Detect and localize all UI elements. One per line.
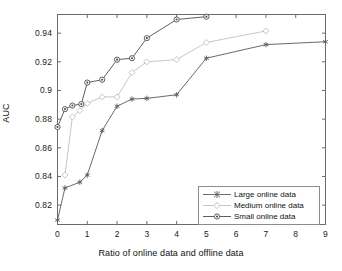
y-tick-label: 0.86 <box>18 143 52 153</box>
y-tick-label: 0.9 <box>18 85 52 95</box>
x-tick-label: 5 <box>204 229 209 239</box>
legend-item-small: Small online data <box>199 211 319 222</box>
auc-vs-ratio-line-chart <box>0 0 342 271</box>
y-tick-label: 0.94 <box>18 28 52 38</box>
legend-item-medium: Medium online data <box>199 200 319 211</box>
y-tick-label: 0.88 <box>18 114 52 124</box>
series-medium-online-data <box>62 28 269 178</box>
legend-marker-small <box>202 211 232 222</box>
legend-label-small: Small online data <box>232 211 295 222</box>
x-tick-label: 1 <box>85 229 90 239</box>
x-tick-label: 2 <box>115 229 120 239</box>
chart-legend: Large online data Medium online data Sma… <box>198 186 320 225</box>
y-tick-label: 0.84 <box>18 171 52 181</box>
x-tick-label: 3 <box>144 229 149 239</box>
y-tick-label: 0.82 <box>18 200 52 210</box>
x-tick-label: 0 <box>55 229 60 239</box>
x-tick-label: 9 <box>323 229 328 239</box>
legend-marker-medium <box>202 200 232 211</box>
chart-figure: AUC Ratio of online data and offline dat… <box>0 0 342 271</box>
legend-marker-large <box>202 189 232 200</box>
y-axis-label: AUC <box>1 93 11 133</box>
x-tick-label: 4 <box>174 229 179 239</box>
legend-item-large: Large online data <box>199 189 319 200</box>
x-tick-label: 6 <box>234 229 239 239</box>
x-tick-label: 7 <box>264 229 269 239</box>
legend-label-large: Large online data <box>232 189 296 200</box>
x-tick-label: 8 <box>293 229 298 239</box>
x-axis-label: Ratio of online data and offline data <box>0 248 342 258</box>
y-tick-label: 0.92 <box>18 57 52 67</box>
legend-label-medium: Medium online data <box>232 200 304 211</box>
